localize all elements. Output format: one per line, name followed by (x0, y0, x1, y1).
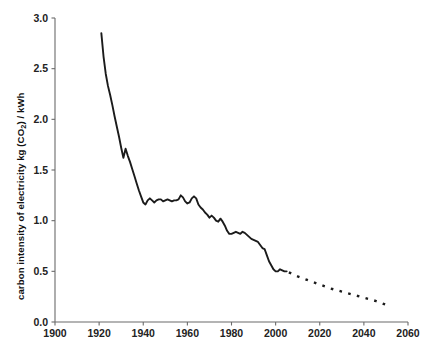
chart-figure: 0.00.51.01.52.02.53.0 190019201940196019… (0, 0, 426, 359)
x-tick-label: 1900 (43, 327, 67, 339)
x-tick-label: 1980 (220, 327, 244, 339)
carbon-intensity-line-chart: 0.00.51.01.52.02.53.0 190019201940196019… (0, 0, 426, 359)
x-tick-label: 1960 (176, 327, 200, 339)
y-tick-label: 1.0 (33, 214, 48, 226)
y-tick-label: 1.5 (33, 164, 48, 176)
y-tick-label: 3.0 (33, 12, 48, 24)
y-tick-label: 2.5 (33, 62, 48, 74)
x-tick-label: 1940 (132, 327, 156, 339)
x-tick-label: 2000 (264, 327, 288, 339)
y-tick-label: 0.5 (33, 265, 48, 277)
x-tick-label: 1920 (87, 327, 111, 339)
x-tick-label: 2040 (352, 327, 376, 339)
x-tick-label: 2060 (396, 327, 420, 339)
chart-background (0, 0, 426, 359)
y-tick-label: 2.0 (33, 113, 48, 125)
x-tick-label: 2020 (308, 327, 332, 339)
y-tick-label: 0.0 (33, 316, 48, 328)
